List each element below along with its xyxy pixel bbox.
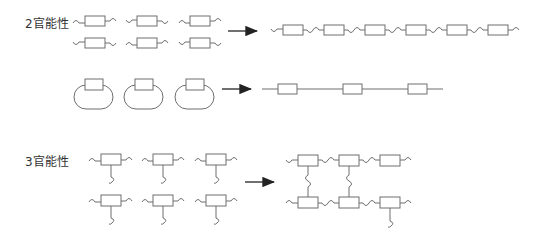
ring-opened-chain (262, 84, 443, 94)
monomer-trifunctional (142, 154, 184, 183)
monomer-bifunctional (179, 38, 221, 48)
monomer-bifunctional (126, 38, 168, 48)
monomer-trifunctional (89, 154, 132, 183)
monomer-trifunctional (142, 195, 184, 224)
monomer-cyclic (175, 79, 214, 109)
monomer-cyclic (124, 79, 163, 109)
monomer-bifunctional (73, 38, 116, 48)
monomer-bifunctional (73, 16, 116, 26)
monomer-trifunctional (89, 195, 132, 224)
polymerization-diagram (0, 0, 543, 245)
linear-polymer-chain (271, 25, 519, 35)
monomer-trifunctional (195, 154, 237, 183)
branched-network (286, 155, 411, 227)
monomer-bifunctional (126, 16, 168, 26)
monomer-cyclic (74, 79, 113, 109)
monomer-bifunctional (179, 16, 221, 26)
monomer-trifunctional (195, 195, 237, 224)
